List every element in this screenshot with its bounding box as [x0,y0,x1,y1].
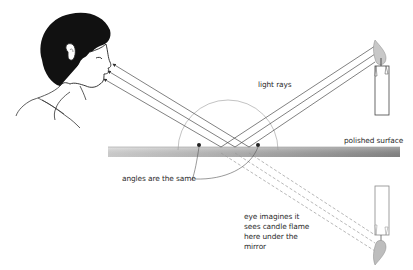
angles-same-label: angles are the same [122,174,196,184]
collar-line [42,100,80,128]
light-rays-label: light rays [258,80,292,90]
reflected-rays [104,64,249,147]
real-candle [373,40,389,115]
virtual-flame-icon [373,240,386,265]
diagram-canvas [0,0,413,270]
eye-imagines-label: eye imagines it sees candle flame here u… [244,212,309,252]
angle-dot-right [256,143,260,147]
candle-flame-icon [373,40,386,65]
back-line [54,92,70,120]
angle-dot-left [197,143,201,147]
incident-rays [221,46,375,147]
polished-surface [108,147,400,157]
boy-head-illustration [16,13,111,128]
virtual-candle [373,186,389,265]
shoulder-line [16,86,60,116]
polished-surface-label: polished surface [344,136,403,146]
reflection-diagram: light rays polished surface angles are t… [0,0,413,270]
